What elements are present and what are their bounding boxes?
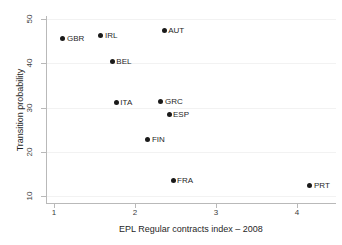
data-point-marker: [307, 183, 312, 188]
y-axis-tick-label-text: 20: [26, 143, 34, 161]
gridline: [47, 19, 336, 20]
y-axis-tick-label-text: 30: [26, 99, 34, 117]
data-point-label: PRT: [314, 181, 330, 190]
data-point-label: AUT: [168, 26, 184, 35]
x-axis-title: EPL Regular contracts index – 2008: [46, 224, 336, 234]
data-point-marker: [158, 99, 163, 104]
data-point-marker: [167, 112, 172, 117]
plot-area: 1020304050 1234 GBRIRLBELITAFINGRCAUTESP…: [0, 0, 342, 245]
data-point-label: IRL: [105, 31, 117, 40]
x-axis-tick-label: 2: [125, 209, 145, 217]
gridline: [47, 108, 336, 109]
data-point-marker: [171, 178, 176, 183]
y-axis-line: [46, 16, 47, 204]
data-point-marker: [145, 137, 150, 142]
data-point-marker: [162, 28, 167, 33]
x-axis-tick-label: 3: [206, 209, 226, 217]
x-axis-line: [46, 203, 336, 204]
scatter-chart-figure: 1020304050 1234 GBRIRLBELITAFINGRCAUTESP…: [0, 0, 342, 245]
y-axis-tick-label-text: 40: [26, 54, 34, 72]
data-point-marker: [114, 100, 119, 105]
data-point-label: ITA: [120, 98, 132, 107]
y-axis-tick-label-text: 10: [26, 187, 34, 205]
data-point-label: BEL: [116, 57, 131, 66]
data-point-marker: [110, 59, 115, 64]
data-point-label: FIN: [152, 135, 165, 144]
data-point-marker: [60, 36, 65, 41]
y-axis-tick-label-text: 50: [26, 10, 34, 28]
data-point-marker: [98, 33, 103, 38]
data-point-label: GRC: [165, 97, 183, 106]
data-point-label: GBR: [67, 34, 84, 43]
y-axis-title: Transition probability: [14, 16, 26, 204]
data-point-label: FRA: [177, 176, 193, 185]
x-axis-tick-label: 1: [44, 209, 64, 217]
gridline: [47, 196, 336, 197]
data-point-label: ESP: [173, 110, 189, 119]
x-axis-tick-label: 4: [287, 209, 307, 217]
gridline: [47, 152, 336, 153]
gridline: [47, 63, 336, 64]
